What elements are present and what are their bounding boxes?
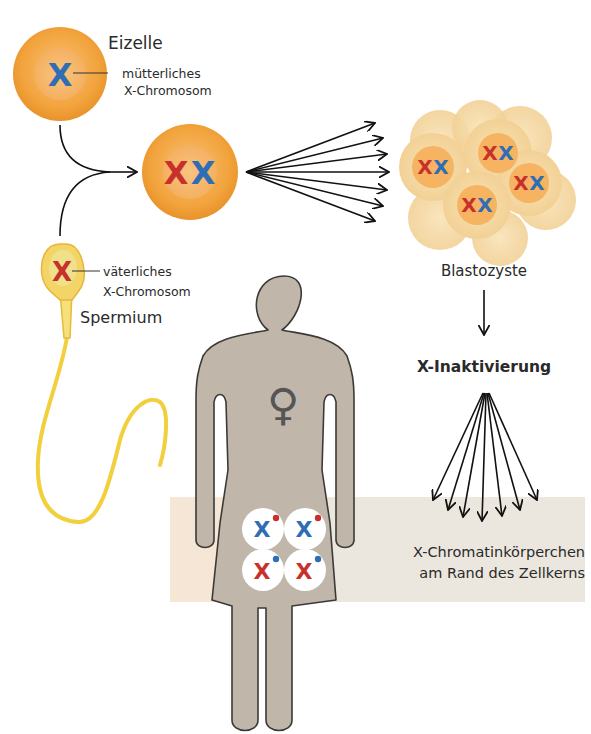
paternal-x-chromosome: X xyxy=(52,257,72,287)
active-x-maternal: X xyxy=(296,517,313,542)
active-x-paternal: X xyxy=(254,559,271,584)
barr-body-dot xyxy=(315,515,321,521)
paternal-x-label: väterliches xyxy=(103,264,172,279)
x-inactivation-diagram: X Eizelle mütterliches X-Chromosom X X xyxy=(0,0,591,734)
svg-text:X: X xyxy=(417,155,433,179)
svg-text:X: X xyxy=(433,155,449,179)
maternal-x: X xyxy=(191,154,216,192)
barr-body-label: X-Chromatinkörperchen xyxy=(413,544,585,560)
blastocyst: X X X X X X X X xyxy=(399,100,576,266)
fertilization-arrow xyxy=(60,125,137,236)
active-x-maternal: X xyxy=(254,517,271,542)
paternal-x: X xyxy=(164,154,189,192)
maternal-x-label-2: X-Chromosom xyxy=(124,83,212,98)
barr-body-dot xyxy=(315,556,321,562)
svg-text:X: X xyxy=(482,141,498,165)
active-x-paternal: X xyxy=(296,559,313,584)
barr-body-label-2: am Rand des Zellkerns xyxy=(419,565,585,581)
maternal-x-chromosome: X xyxy=(48,56,73,94)
svg-text:X: X xyxy=(513,171,529,195)
egg-label: Eizelle xyxy=(108,33,163,53)
sperm-label: Spermium xyxy=(80,308,162,327)
svg-text:X: X xyxy=(477,193,493,217)
cell-division-arrows xyxy=(246,123,389,221)
svg-text:X: X xyxy=(498,141,514,165)
blastocyst-label: Blastozyste xyxy=(441,262,527,280)
svg-text:X: X xyxy=(461,193,477,217)
female-symbol-icon: ♀ xyxy=(267,379,299,430)
svg-text:X: X xyxy=(529,171,545,195)
barr-body-dot xyxy=(273,515,279,521)
maternal-x-label: mütterliches xyxy=(122,66,201,81)
zygote-cell: X X xyxy=(142,124,238,220)
barr-body-dot xyxy=(273,556,279,562)
egg-cell: X xyxy=(13,27,108,121)
x-inactivation-label: X-Inaktivierung xyxy=(417,358,551,376)
paternal-x-label-2: X-Chromosom xyxy=(103,284,191,299)
